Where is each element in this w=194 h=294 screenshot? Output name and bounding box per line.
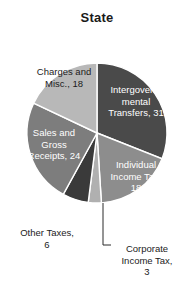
corporate-income-tax-leader-line xyxy=(103,203,111,245)
pie-chart: State Intergovern- mental Transfers, 31 … xyxy=(0,0,194,294)
slice-label-line: Income Tax, xyxy=(104,255,190,267)
pie-slice-group xyxy=(27,63,167,203)
slice-label-line: 6 xyxy=(4,239,90,251)
slice-label-corporate-income-tax: Corporate Income Tax, 3 xyxy=(104,243,190,278)
leader-line-group xyxy=(103,203,111,245)
slice-label-line: 3 xyxy=(104,266,190,278)
slice-label-other-taxes: Other Taxes, 6 xyxy=(4,227,90,250)
slice-label-line: Corporate xyxy=(104,243,190,255)
slice-label-line: Other Taxes, xyxy=(4,227,90,239)
